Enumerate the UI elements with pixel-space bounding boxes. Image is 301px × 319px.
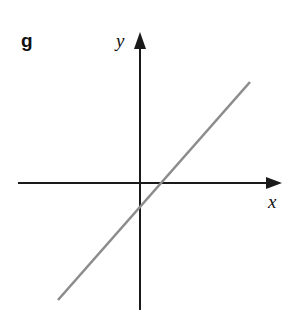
x-axis-arrowhead [266, 177, 282, 189]
function-line-g [58, 82, 250, 300]
figure-panel: g y x [0, 0, 301, 319]
y-axis-arrowhead [134, 32, 146, 49]
x-axis-label: x [268, 192, 276, 211]
y-axis-label: y [116, 31, 124, 50]
panel-letter: g [21, 31, 33, 50]
coordinate-plot [0, 0, 301, 319]
